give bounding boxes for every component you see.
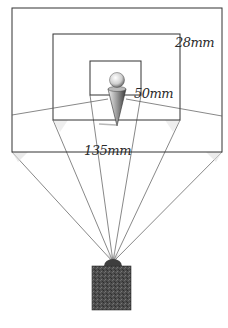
camera-icon <box>92 250 131 310</box>
focal-length-diagram: 28mm 50mm 135mm <box>0 0 228 328</box>
label-135mm: 135mm <box>84 143 131 158</box>
label-50mm: 50mm <box>134 86 173 101</box>
corner-shade <box>165 120 180 132</box>
subject-ice-cream-cone <box>99 73 126 127</box>
label-28mm: 28mm <box>174 35 214 50</box>
